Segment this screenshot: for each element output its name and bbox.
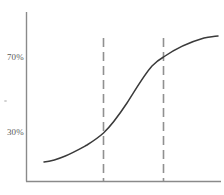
y-axis-tick-label-30: 30% (0, 128, 24, 137)
adoption-curve-line (44, 36, 218, 162)
chart-figure: ······ 70% 30% (0, 0, 224, 195)
y-axis-tick-label-70: 70% (0, 53, 24, 62)
chart-plot-area (0, 0, 224, 195)
